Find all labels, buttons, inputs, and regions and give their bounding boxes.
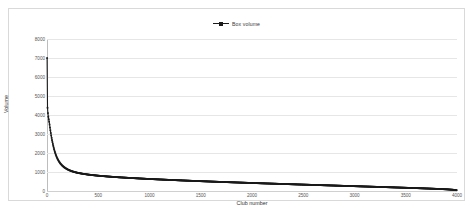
- chart-legend: Box volume: [9, 20, 464, 27]
- x-axis-title: Club number: [47, 200, 457, 206]
- x-tick-1000: 1000: [144, 193, 154, 198]
- x-tick-3500: 3500: [401, 193, 411, 198]
- x-tick-500: 500: [94, 193, 102, 198]
- legend-label-box-volume: Box volume: [232, 21, 260, 27]
- y-tick-2000: 2000: [11, 151, 45, 156]
- y-tick-8000: 8000: [11, 37, 45, 42]
- gridline-y-0: [47, 191, 457, 192]
- x-tick-0: 0: [46, 193, 49, 198]
- x-tick-4000: 4000: [452, 193, 462, 198]
- legend-marker-icon: [213, 20, 229, 27]
- y-tick-7000: 7000: [11, 56, 45, 61]
- x-tick-2500: 2500: [298, 193, 308, 198]
- y-tick-1000: 1000: [11, 170, 45, 175]
- x-tick-3000: 3000: [349, 193, 359, 198]
- x-tick-1500: 1500: [196, 193, 206, 198]
- y-axis-tick-labels: 010002000300040005000600070008000: [9, 39, 45, 191]
- y-tick-3000: 3000: [11, 132, 45, 137]
- y-tick-4000: 4000: [11, 113, 45, 118]
- y-axis-title: Volume: [3, 95, 9, 113]
- y-tick-6000: 6000: [11, 75, 45, 80]
- y-tick-5000: 5000: [11, 94, 45, 99]
- x-tick-2000: 2000: [247, 193, 257, 198]
- plot-area: [47, 39, 457, 191]
- data-series-box-volume: [47, 39, 457, 191]
- chart-container: Box volume 01000200030004000500060007000…: [8, 8, 465, 201]
- y-tick-0: 0: [11, 189, 45, 194]
